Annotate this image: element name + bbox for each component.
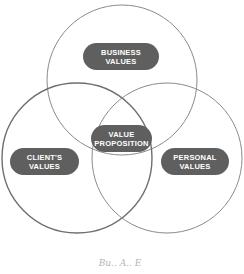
business-values-line1: BUSINESS (101, 48, 141, 57)
value-proposition-line1: VALUE (94, 130, 148, 139)
personal-values-label: PERSONAL VALUES (161, 148, 229, 175)
personal-values-line1: PERSONAL (173, 153, 216, 162)
value-proposition-line2: PROPOSITION (94, 139, 148, 148)
value-proposition-label: VALUE PROPOSITION (91, 125, 152, 152)
business-values-label: BUSINESS VALUES (83, 43, 159, 70)
personal-values-line2: VALUES (173, 162, 216, 171)
clients-values-line1: CLIENT'S (27, 153, 62, 162)
handwritten-caption: Bu.. A.. E (60, 258, 180, 274)
clients-values-label: CLIENT'S VALUES (10, 148, 79, 175)
clients-values-line2: VALUES (27, 162, 62, 171)
business-values-line2: VALUES (101, 57, 141, 66)
